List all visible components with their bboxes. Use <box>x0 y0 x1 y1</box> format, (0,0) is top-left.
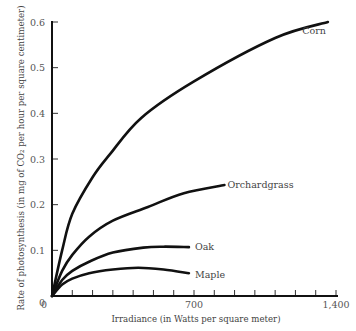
series-label-maple: Maple <box>195 269 226 280</box>
x-axis-title: Irradiance (in Watts per square meter) <box>111 314 280 324</box>
series-label-oak: Oak <box>195 241 214 252</box>
x-tick-label: 0 <box>41 299 47 310</box>
x-tick-label: 700 <box>185 299 203 310</box>
series-labels: CornOrchardgrassOakMaple <box>195 25 326 280</box>
y-axis-ticks: 00.10.20.30.40.50.6 <box>30 17 58 309</box>
curve-corn <box>52 22 328 296</box>
y-tick-label: 0.5 <box>30 62 45 73</box>
x-tick-label: 1,400 <box>322 299 349 310</box>
y-axis-title: Rate of photosynthesis (in mg of CO₂ per… <box>16 5 26 310</box>
y-tick-label: 0.6 <box>30 17 45 28</box>
series-label-corn: Corn <box>302 25 326 36</box>
y-axis-title-text: Rate of photosynthesis (in mg of CO₂ per… <box>16 5 26 310</box>
series-curves <box>52 22 328 296</box>
x-axis-ticks: 07001,400 <box>41 290 350 310</box>
y-tick-label: 0.3 <box>30 154 45 165</box>
photosynthesis-chart: Rate of photosynthesis (in mg of CO₂ per… <box>0 0 356 331</box>
y-tick-label: 0.2 <box>30 199 45 210</box>
y-tick-label: 0.1 <box>30 245 45 256</box>
y-tick-label: 0.4 <box>30 108 45 119</box>
series-label-orchardgrass: Orchardgrass <box>227 179 293 190</box>
